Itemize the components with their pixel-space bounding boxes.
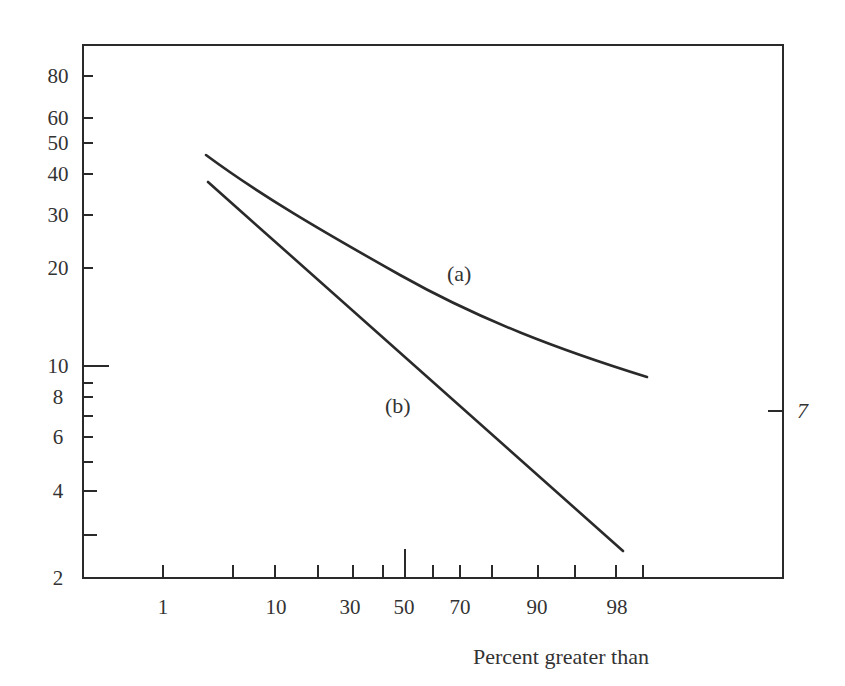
right-marker-label: 7 xyxy=(797,398,809,423)
x-axis-title: Percent greater than xyxy=(473,644,649,669)
series-a-label: (a) xyxy=(447,261,471,286)
y-tick-label: 50 xyxy=(48,131,69,155)
y-tick-label: 30 xyxy=(48,203,69,227)
y-tick-label: 60 xyxy=(48,106,69,130)
x-tick-label: 98 xyxy=(607,595,628,619)
series-a-curve xyxy=(206,155,647,377)
x-tick-label: 10 xyxy=(266,595,287,619)
y-tick-label: 20 xyxy=(48,256,69,280)
y-tick-label: 10 xyxy=(48,354,69,378)
x-tick-label: 30 xyxy=(340,595,361,619)
x-tick-label: 90 xyxy=(527,595,548,619)
y-tick-label: 80 xyxy=(48,64,69,88)
y-tick-label: 8 xyxy=(53,385,64,409)
y-axis-ticks xyxy=(83,76,109,535)
y-axis-labels: 80 60 50 40 30 20 10 8 6 4 2 xyxy=(48,64,69,590)
plot-frame xyxy=(83,45,783,578)
y-tick-label: 2 xyxy=(53,566,64,590)
x-tick-label: 1 xyxy=(158,595,169,619)
series-b-line xyxy=(208,182,623,551)
x-axis-ticks xyxy=(163,549,643,578)
y-tick-label: 6 xyxy=(53,425,64,449)
x-tick-label: 50 xyxy=(394,595,415,619)
series-b-label: (b) xyxy=(385,393,411,418)
y-tick-label: 4 xyxy=(53,479,64,503)
chart-canvas: 80 60 50 40 30 20 10 8 6 4 2 1 10 30 50 … xyxy=(0,0,845,686)
x-tick-label: 70 xyxy=(450,595,471,619)
x-axis-labels: 1 10 30 50 70 90 98 xyxy=(158,595,628,619)
y-tick-label: 40 xyxy=(48,162,69,186)
